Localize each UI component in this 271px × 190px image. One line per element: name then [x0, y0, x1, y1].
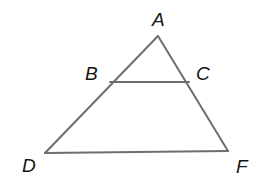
vertex-label-c: C: [196, 64, 210, 83]
triangle-diagram-canvas: [0, 0, 271, 190]
vertex-label-a: A: [152, 10, 165, 29]
vertex-label-d: D: [22, 156, 36, 175]
segment-AF-line: [158, 36, 228, 151]
segment-AD-line: [45, 36, 158, 153]
segment-DF-line: [45, 151, 228, 153]
vertex-label-b: B: [85, 64, 98, 83]
vertex-label-f: F: [236, 157, 248, 176]
geometry-figure: A B C D F: [0, 0, 271, 190]
